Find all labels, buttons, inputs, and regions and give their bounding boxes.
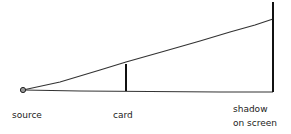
top-ray-line bbox=[23, 19, 273, 90]
shadow-label-line2: on screen bbox=[233, 118, 277, 129]
card-label: card bbox=[113, 110, 133, 121]
shadow-label-line1: shadow bbox=[233, 104, 268, 115]
source-label: source bbox=[12, 110, 42, 121]
light-source-dot bbox=[20, 87, 25, 92]
baseline bbox=[23, 90, 273, 92]
